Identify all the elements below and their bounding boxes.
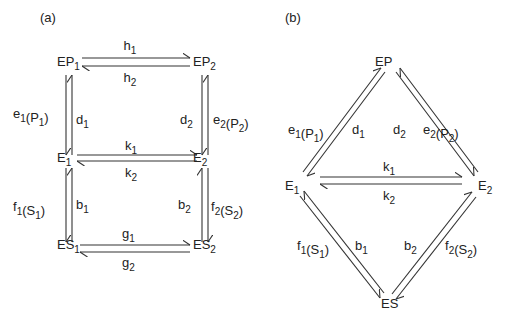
rate-label-a-g2: g2 (122, 255, 135, 273)
node-a-ep1: EP1 (57, 54, 80, 72)
rate-label-a-b1: b1 (76, 197, 89, 215)
rate-label-b-e2: e2(P2) (423, 122, 459, 144)
rate-label-a-d2: d2 (180, 112, 193, 130)
rate-label-a-h2: h2 (124, 70, 137, 88)
rate-label-b-k1: k1 (383, 159, 396, 177)
rate-label-b-b2: b2 (404, 238, 417, 256)
rate-label-b-d2: d2 (393, 122, 406, 140)
arrow-b-ep-to-e2 (396, 72, 474, 176)
rate-label-b-e1: e1(P1) (288, 122, 324, 144)
rate-label-a-h1: h1 (124, 38, 137, 56)
rate-label-a-e2: e2(P2) (213, 112, 249, 134)
rate-label-b-k2: k2 (383, 188, 396, 206)
rate-label-a-f1: f1(S1) (13, 199, 45, 221)
node-b-ep: EP (375, 54, 392, 69)
rate-label-a-k1: k1 (125, 138, 138, 156)
rate-label-a-g1: g1 (122, 226, 135, 244)
node-a-es1: ES1 (57, 237, 80, 255)
node-a-e2: E2 (193, 150, 208, 168)
rate-label-a-b2: b2 (178, 197, 191, 215)
rate-label-a-f2: f2(S2) (211, 199, 243, 221)
arrow-b-e2-to-ep (400, 68, 478, 172)
node-b-e1: E1 (285, 178, 300, 196)
rate-label-b-f2: f2(S2) (445, 238, 477, 260)
node-a-es2: ES2 (193, 237, 216, 255)
rate-label-a-k2: k2 (125, 165, 138, 183)
kinetic-scheme-diagram: (a) (b) EP1EP2E1E2ES1ES2h1h2e1(P1)d1e2(P… (0, 0, 518, 323)
rate-label-a-e1: e1(P1) (13, 106, 49, 128)
node-a-e1: E1 (57, 150, 72, 168)
rate-label-b-b1: b1 (355, 238, 368, 256)
panel-b-label: (b) (285, 10, 301, 25)
panel-a-label: (a) (40, 10, 56, 25)
node-a-ep2: EP2 (193, 54, 216, 72)
node-b-e2: E2 (478, 178, 493, 196)
node-b-es: ES (381, 296, 399, 311)
rate-label-b-d1: d1 (352, 122, 365, 140)
rate-label-b-f1: f1(S1) (297, 238, 329, 260)
rate-label-a-d1: d1 (76, 112, 89, 130)
arrow-b-e1-to-ep (303, 68, 381, 172)
arrow-b-ep-to-e1 (307, 72, 385, 176)
